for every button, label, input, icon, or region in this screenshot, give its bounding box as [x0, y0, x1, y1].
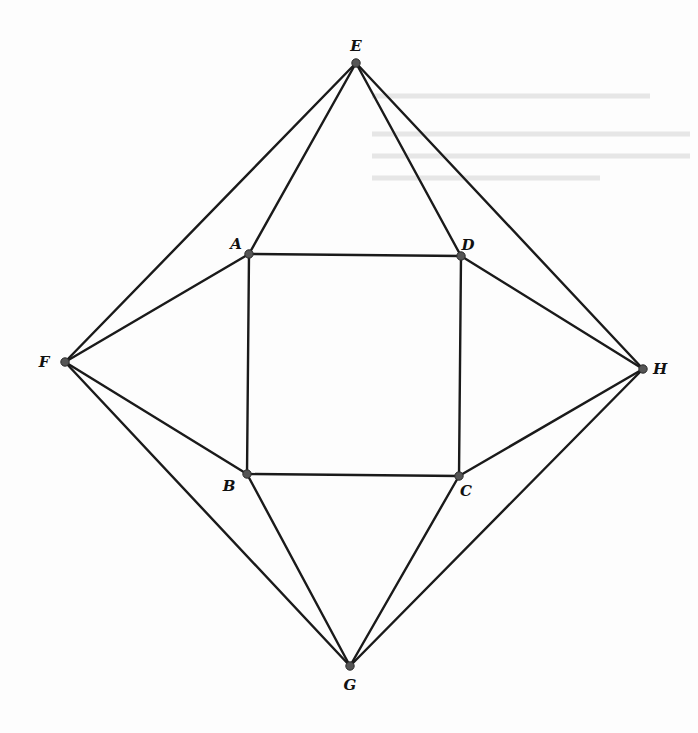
point-h	[639, 365, 647, 373]
edges	[65, 63, 643, 666]
segment-ea	[249, 63, 356, 254]
geometry-diagram: ABCDEFGH	[0, 0, 698, 733]
label-d: D	[460, 236, 474, 254]
label-e: E	[349, 37, 362, 55]
segment-ad	[249, 254, 461, 256]
label-c: C	[460, 482, 472, 500]
point-g	[346, 662, 354, 670]
label-g: G	[344, 676, 357, 694]
label-h: H	[652, 360, 668, 378]
label-a: A	[228, 235, 242, 253]
point-f	[61, 358, 69, 366]
bleed-through-background	[372, 96, 690, 178]
segment-dc	[459, 256, 461, 476]
segment-ef	[65, 63, 356, 362]
label-f: F	[38, 353, 51, 371]
points	[61, 59, 647, 670]
label-b: B	[222, 477, 236, 495]
point-b	[243, 470, 251, 478]
segment-fa	[65, 254, 249, 362]
segment-ba	[247, 254, 249, 474]
point-a	[245, 250, 253, 258]
segment-fg	[65, 362, 350, 666]
segment-cb	[247, 474, 459, 476]
segment-eh	[356, 63, 643, 369]
point-c	[455, 472, 463, 480]
segment-gb	[247, 474, 350, 666]
segment-hg	[350, 369, 643, 666]
segment-fb	[65, 362, 247, 474]
diagram-svg: ABCDEFGH	[0, 0, 698, 733]
point-e	[352, 59, 360, 67]
segment-hc	[459, 369, 643, 476]
